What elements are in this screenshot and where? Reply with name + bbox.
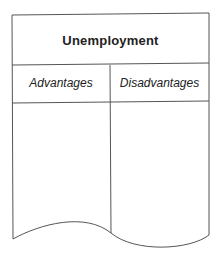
column-divider <box>110 65 111 233</box>
left-border <box>12 15 13 239</box>
table-title: Unemployment <box>12 33 209 48</box>
column-header-advantages: Advantages <box>12 76 110 90</box>
header-divider <box>12 63 209 65</box>
column-header-disadvantages: Disadvantages <box>110 76 209 90</box>
top-border <box>12 13 209 15</box>
